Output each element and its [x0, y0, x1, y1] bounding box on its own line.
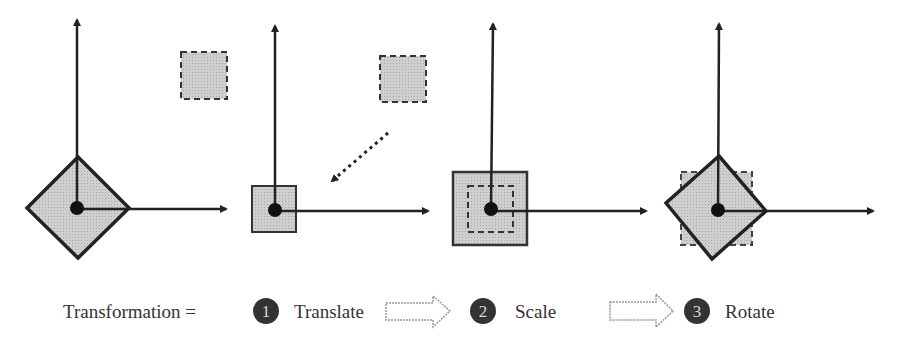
- step-number-1: 1: [262, 302, 271, 321]
- dashed-source-square: [380, 56, 426, 102]
- step-1: 1 Translate: [253, 298, 364, 324]
- dashed-source-square: [181, 52, 227, 99]
- step-label-scale: Scale: [515, 301, 556, 322]
- origin-dot: [711, 203, 725, 217]
- y-axis-arrow: [718, 24, 719, 210]
- step-number-3: 3: [693, 302, 702, 321]
- step-2: 2 Scale: [470, 298, 556, 324]
- panel-rotate: [666, 24, 873, 259]
- hollow-arrow-icon: [610, 294, 673, 327]
- equation-label: Transformation =: [63, 301, 196, 322]
- origin-dot: [484, 202, 498, 216]
- step-number-2: 2: [479, 302, 488, 321]
- step-label-translate: Translate: [294, 301, 364, 322]
- hollow-arrow-icon: [386, 296, 450, 327]
- step-label-rotate: Rotate: [725, 301, 775, 322]
- origin-dot: [70, 201, 84, 215]
- equation-row: Transformation = 1 Translate 2 Scale 3 R…: [63, 294, 775, 327]
- panel-translate: [252, 26, 428, 232]
- origin-dot: [268, 203, 282, 217]
- transformation-diagram: Transformation = 1 Translate 2 Scale 3 R…: [0, 0, 900, 347]
- dotted-move-arrow: [332, 133, 388, 181]
- panel-original: [27, 20, 227, 258]
- step-3: 3 Rotate: [684, 298, 775, 324]
- panel-scale: [453, 24, 646, 245]
